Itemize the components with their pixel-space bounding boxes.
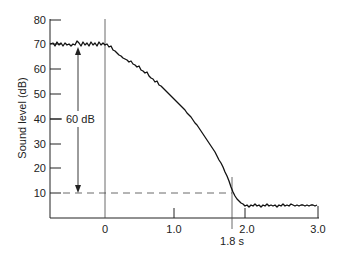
reverberation-chart: 80 70 60 50 40 30 20 10 Sound level (dB)… — [0, 0, 341, 257]
y-tick-label: 20 — [34, 162, 46, 174]
y-tick-label: 70 — [34, 38, 46, 50]
y-tick-label: 60 — [34, 63, 46, 75]
x-tick-label: 3.0 — [310, 223, 325, 235]
y-tick-label: 50 — [34, 88, 46, 100]
x-ticks — [174, 206, 318, 218]
x-tick-label: 1.0 — [166, 223, 181, 235]
y-axis-title: Sound level (dB) — [16, 77, 28, 158]
delta-60db-label: 60 dB — [66, 113, 95, 125]
y-tick-label: 40 — [34, 113, 46, 125]
y-tick-labels: 80 70 60 50 40 30 20 10 — [34, 14, 46, 199]
decay-time-label: 1.8 s — [220, 235, 244, 247]
y-tick-label: 30 — [34, 138, 46, 150]
x-tick-label: 0 — [102, 223, 108, 235]
y-tick-label: 80 — [34, 14, 46, 26]
x-tick-labels: 0 1.0 2.0 3.0 — [102, 223, 326, 235]
y-tick-label: 10 — [34, 187, 46, 199]
x-tick-label: 2.0 — [239, 223, 254, 235]
